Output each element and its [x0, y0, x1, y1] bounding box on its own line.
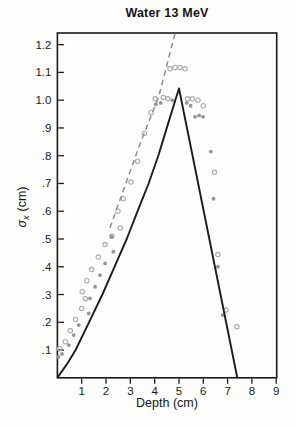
- open-data-point: [63, 340, 67, 344]
- filled-data-point: [88, 297, 92, 301]
- open-data-point: [196, 98, 200, 102]
- open-data-point: [103, 242, 107, 246]
- open-data-point: [118, 226, 122, 230]
- plot-area: 123456789.1.2.3.4.5.6.7.8.91.01.11.2: [0, 0, 296, 426]
- y-tick-label-.9: .9: [42, 122, 52, 134]
- y-axis-ticks: .1.2.3.4.5.6.7.8.91.01.11.2: [35, 39, 64, 356]
- open-data-point: [178, 65, 182, 69]
- model-solid-curve-path: [57, 89, 237, 378]
- series-measured-filled-circles: [57, 98, 225, 359]
- open-data-point: [183, 67, 187, 71]
- filled-data-point: [98, 273, 102, 277]
- x-tick-label-5: 5: [176, 385, 182, 397]
- x-tick-label-6: 6: [200, 385, 206, 397]
- open-data-point: [190, 97, 194, 101]
- series-model-solid-curve: [57, 89, 237, 378]
- filled-data-point: [185, 101, 189, 105]
- figure: Water 13 MeV σx(cm) 123456789.1.2.3.4.5.…: [0, 0, 296, 426]
- open-data-point: [85, 278, 89, 282]
- filled-data-point: [193, 115, 197, 119]
- open-data-point: [121, 197, 125, 201]
- filled-data-point: [216, 265, 220, 269]
- open-data-point: [235, 325, 239, 329]
- filled-data-point: [212, 197, 216, 201]
- open-data-point: [80, 290, 84, 294]
- filled-data-point: [201, 115, 205, 119]
- y-tick-label-.6: .6: [42, 205, 52, 217]
- open-data-point: [212, 170, 216, 174]
- x-tick-label-8: 8: [249, 385, 255, 397]
- open-data-point: [83, 296, 87, 300]
- x-tick-label-9: 9: [273, 385, 279, 397]
- open-data-point: [89, 267, 93, 271]
- filled-data-point: [103, 262, 107, 266]
- y-tick-label-.2: .2: [42, 316, 52, 328]
- filled-data-point: [170, 98, 174, 102]
- filled-data-point: [77, 323, 81, 327]
- x-tick-label-2: 2: [103, 385, 109, 397]
- filled-data-point: [57, 355, 61, 359]
- y-tick-label-1.0: 1.0: [35, 94, 51, 106]
- open-data-point: [173, 65, 177, 69]
- open-data-point: [73, 317, 77, 321]
- filled-data-point: [110, 235, 114, 239]
- y-tick-label-.1: .1: [42, 344, 52, 356]
- y-tick-label-.4: .4: [42, 261, 52, 273]
- filled-data-point: [67, 343, 71, 347]
- y-tick-label-.5: .5: [42, 233, 52, 245]
- filled-data-point: [93, 285, 97, 289]
- open-data-point: [201, 104, 205, 108]
- filled-data-point: [60, 352, 64, 356]
- open-data-point: [80, 306, 84, 310]
- y-tick-label-1.2: 1.2: [35, 39, 51, 51]
- filled-data-point: [209, 150, 213, 154]
- filled-data-point: [197, 114, 201, 118]
- open-data-point: [135, 159, 139, 163]
- y-tick-label-.3: .3: [42, 289, 52, 301]
- y-tick-label-1.1: 1.1: [35, 66, 51, 78]
- x-tick-label-3: 3: [127, 385, 133, 397]
- y-tick-label-.7: .7: [42, 177, 52, 189]
- open-data-point: [161, 95, 165, 99]
- open-data-point: [168, 67, 172, 71]
- y-tick-label-.8: .8: [42, 150, 52, 162]
- open-data-point: [186, 97, 190, 101]
- open-data-point: [216, 252, 220, 256]
- filled-data-point: [189, 104, 193, 108]
- filled-data-point: [72, 333, 76, 337]
- open-data-point: [129, 180, 133, 184]
- open-data-point: [68, 328, 72, 332]
- x-axis-label: Depth (cm): [57, 396, 277, 410]
- open-data-point: [166, 97, 170, 101]
- x-axis-ticks: 123456789: [79, 379, 280, 397]
- x-tick-label-7: 7: [224, 385, 230, 397]
- plot-box: [57, 33, 276, 378]
- filled-data-point: [87, 311, 91, 315]
- open-data-point: [96, 255, 100, 259]
- x-tick-label-4: 4: [151, 385, 158, 397]
- series-measured-open-circles: [57, 65, 239, 351]
- x-tick-label-1: 1: [79, 385, 85, 397]
- filled-data-point: [111, 250, 115, 254]
- filled-data-point: [159, 101, 163, 105]
